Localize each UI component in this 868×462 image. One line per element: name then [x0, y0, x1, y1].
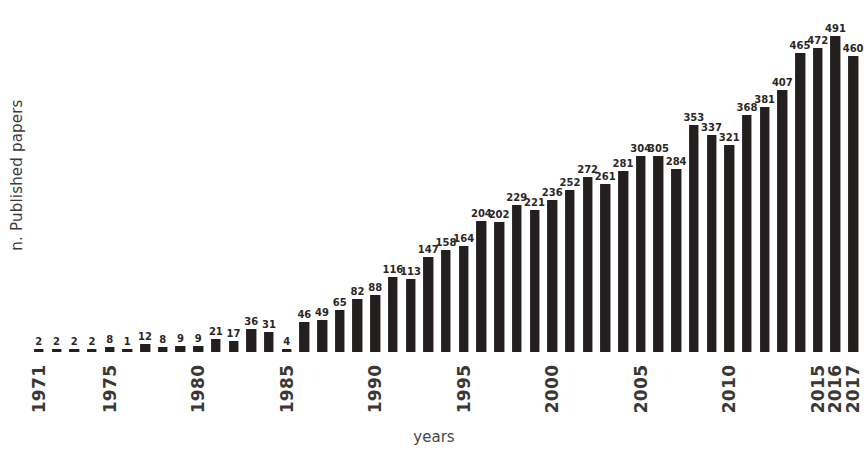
bar-column: 281 [614, 8, 632, 352]
bar [441, 250, 451, 352]
bar-value-label: 65 [333, 298, 347, 308]
bar-column: 337 [703, 8, 721, 352]
bar-column: 17 [225, 8, 243, 352]
bar-value-label: 21 [209, 327, 223, 337]
bar [424, 257, 434, 352]
bar-value-label: 472 [807, 36, 828, 46]
x-axis-tick-label: 1975 [101, 356, 119, 422]
x-axis-tick-label: 2010 [720, 356, 738, 422]
bar-column: 164 [455, 8, 473, 352]
bar-column: 229 [508, 8, 526, 352]
bar [494, 222, 504, 352]
bar-column: 381 [756, 8, 774, 352]
bar-value-label: 2 [88, 337, 95, 347]
bar-column: 465 [791, 8, 809, 352]
bar-value-label: 31 [262, 320, 276, 330]
x-axis-tick-label-text: 2010 [719, 365, 739, 414]
bar-value-label: 284 [666, 157, 687, 167]
bar [211, 339, 221, 353]
bar-value-label: 321 [719, 133, 740, 143]
bar-column: 49 [313, 8, 331, 352]
bar-value-label: 2 [71, 337, 78, 347]
bar [264, 332, 274, 352]
bar-column: 272 [579, 8, 597, 352]
bar-column: 305 [650, 8, 668, 352]
bar-column: 4 [278, 8, 296, 352]
bar-column: 1 [119, 8, 137, 352]
x-axis-tick-label: 2005 [632, 356, 650, 422]
bar [140, 344, 150, 352]
x-axis-tick-label-text: 1985 [277, 365, 297, 414]
bar-value-label: 4 [283, 337, 290, 347]
bar-column: 221 [526, 8, 544, 352]
x-axis-tick-label-text: 1980 [188, 365, 208, 414]
x-axis-tick-label: 1971 [30, 356, 48, 422]
bar-column: 31 [260, 8, 278, 352]
bar-column: 284 [667, 8, 685, 352]
x-axis-tick-label: 1980 [189, 356, 207, 422]
bar [707, 135, 717, 352]
bar-column: 2 [48, 8, 66, 352]
bar [742, 115, 752, 352]
bar-value-label: 9 [177, 334, 184, 344]
bar-value-label: 49 [315, 308, 329, 318]
bar-value-label: 17 [227, 329, 241, 339]
bar-value-label: 36 [244, 317, 258, 327]
bar [848, 56, 858, 352]
bar [813, 48, 823, 352]
bar-value-label: 236 [542, 188, 563, 198]
bar-value-label: 164 [453, 234, 474, 244]
bar-column: 9 [189, 8, 207, 352]
bar-column: 2 [65, 8, 83, 352]
y-axis-title: n. Published papers [2, 0, 32, 350]
bar-column: 147 [419, 8, 437, 352]
bar-value-label: 113 [400, 267, 421, 277]
bar-value-label: 12 [138, 332, 152, 342]
bar-column: 12 [136, 8, 154, 352]
bar [512, 205, 522, 352]
bar-column: 472 [809, 8, 827, 352]
bar-value-label: 82 [351, 287, 365, 297]
bar [565, 190, 575, 352]
x-axis-tick-label: 1985 [278, 356, 296, 422]
bar [247, 329, 257, 352]
x-axis-tick-label: 1990 [366, 356, 384, 422]
x-axis-baseline [30, 352, 862, 353]
bar [583, 177, 593, 352]
bar-value-label: 381 [754, 95, 775, 105]
bar-column: 158 [437, 8, 455, 352]
bar [760, 107, 770, 352]
x-axis-tick-label: 1995 [455, 356, 473, 422]
bar-column: 202 [490, 8, 508, 352]
x-axis-tick-label: 2017 [844, 356, 862, 422]
bar [406, 279, 416, 352]
bar-value-label: 261 [595, 172, 616, 182]
bar-column: 82 [349, 8, 367, 352]
bar-column: 491 [827, 8, 845, 352]
bar [689, 125, 699, 352]
bar-value-label: 407 [772, 78, 793, 88]
bar-value-label: 9 [195, 334, 202, 344]
bar-column: 204 [473, 8, 491, 352]
bar [353, 299, 363, 352]
bar-value-label: 281 [613, 159, 634, 169]
x-axis-tick-label-text: 1971 [29, 365, 49, 414]
bar-value-label: 202 [489, 210, 510, 220]
x-axis-tick-label-text: 2017 [843, 365, 863, 414]
bar-column: 236 [543, 8, 561, 352]
x-axis-tick-labels: 1971197519801985199019952000200520102015… [30, 356, 862, 422]
bar-column: 368 [738, 8, 756, 352]
x-axis-tick-label-text: 1995 [454, 365, 474, 414]
bar-column: 407 [773, 8, 791, 352]
bar [530, 210, 540, 352]
bar-column: 2 [83, 8, 101, 352]
bar-value-label: 1 [124, 337, 131, 347]
bar-column: 46 [296, 8, 314, 352]
bar [671, 169, 681, 352]
bar-column: 8 [154, 8, 172, 352]
bar-column: 9 [172, 8, 190, 352]
bar-column: 2 [30, 8, 48, 352]
bar [388, 277, 398, 352]
bar-value-label: 305 [648, 144, 669, 154]
bar-value-label: 252 [559, 178, 580, 188]
